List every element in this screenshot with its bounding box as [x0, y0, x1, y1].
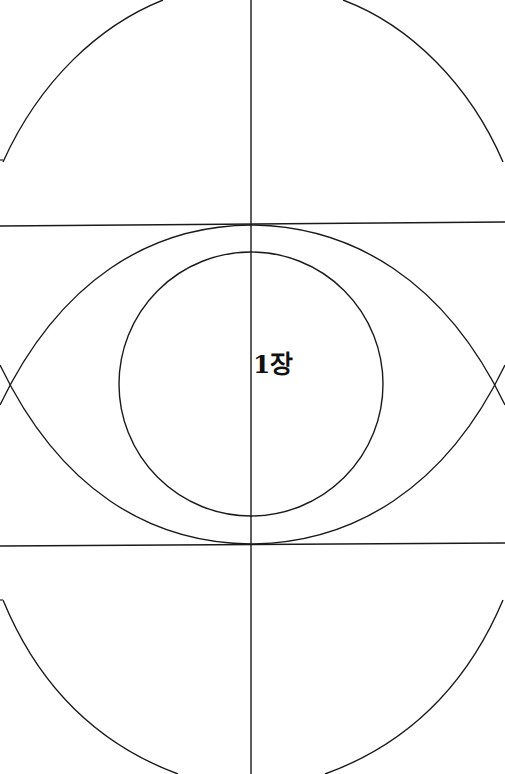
diagram-canvas [0, 0, 505, 774]
outer-ellipse-top-arc-right [343, 0, 503, 162]
outer-ellipse-top-arc [3, 0, 163, 162]
center-label: 1장 [253, 352, 293, 377]
outer-ellipse-bottom-arc-left [3, 600, 178, 774]
outer-ellipse-bottom-arc-right [325, 600, 503, 774]
vesica-bottom-arc [0, 365, 505, 544]
